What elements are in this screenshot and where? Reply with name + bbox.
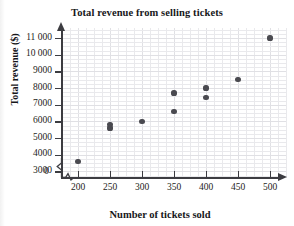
gridline-horizontal xyxy=(62,59,286,60)
gridline-horizontal xyxy=(62,67,286,68)
y-tick-label: 6000 xyxy=(4,115,52,125)
gridline-horizontal xyxy=(62,80,286,81)
x-tick-label: 500 xyxy=(250,182,290,192)
chart-figure: Total revenue from selling tickets Total… xyxy=(0,0,294,226)
y-tick-label: 4000 xyxy=(4,148,52,158)
gridline-horizontal xyxy=(62,121,286,122)
data-point xyxy=(171,109,176,114)
y-tick-mark xyxy=(55,138,62,139)
y-tick-mark xyxy=(55,71,62,72)
y-tick-mark xyxy=(55,55,62,56)
plot-area xyxy=(62,28,286,178)
gridline-horizontal xyxy=(62,155,286,156)
gridline-horizontal xyxy=(62,38,286,39)
data-point xyxy=(203,95,208,100)
x-axis-arrow-icon xyxy=(278,173,287,181)
gridline-horizontal xyxy=(62,142,286,143)
gridline-horizontal xyxy=(62,138,286,139)
data-point xyxy=(203,85,208,90)
gridline-vertical xyxy=(286,28,287,178)
x-axis-line xyxy=(61,177,280,179)
y-tick-mark xyxy=(55,105,62,106)
y-tick-mark xyxy=(55,121,62,122)
y-tick-label: 3000 xyxy=(4,165,52,175)
data-point xyxy=(139,119,144,124)
y-tick-label: 9000 xyxy=(4,65,52,75)
gridline-horizontal xyxy=(62,88,286,89)
data-point xyxy=(107,122,112,127)
x-tick-mark xyxy=(78,171,79,178)
gridline-horizontal xyxy=(62,159,286,160)
y-tick-mark xyxy=(55,171,62,172)
x-tick-mark xyxy=(174,171,175,178)
y-tick-label: 8000 xyxy=(4,82,52,92)
data-point xyxy=(267,35,272,40)
gridline-horizontal xyxy=(62,84,286,85)
y-tick-label: 10 000 xyxy=(4,48,52,58)
gridline-horizontal xyxy=(62,71,286,72)
y-tick-label: 11 000 xyxy=(4,32,52,42)
gridline-horizontal xyxy=(62,105,286,106)
gridline-horizontal xyxy=(62,101,286,102)
gridline-horizontal xyxy=(62,63,286,64)
y-tick-mark xyxy=(55,38,62,39)
x-tick-mark xyxy=(270,171,271,178)
y-tick-label: 5000 xyxy=(4,132,52,142)
gridline-horizontal xyxy=(62,167,286,168)
gridline-horizontal xyxy=(62,151,286,152)
gridline-horizontal xyxy=(62,96,286,97)
y-tick-mark xyxy=(55,155,62,156)
data-point xyxy=(171,90,176,95)
gridline-horizontal xyxy=(62,42,286,43)
gridline-horizontal xyxy=(62,130,286,131)
x-tick-mark xyxy=(142,171,143,178)
gridline-horizontal xyxy=(62,134,286,135)
data-point xyxy=(235,77,240,82)
data-point xyxy=(75,159,80,164)
gridline-horizontal xyxy=(62,163,286,164)
gridline-horizontal xyxy=(62,146,286,147)
gridline-horizontal xyxy=(62,46,286,47)
gridline-horizontal xyxy=(62,30,286,31)
gridline-horizontal xyxy=(62,55,286,56)
y-tick-label: 7000 xyxy=(4,98,52,108)
x-tick-mark xyxy=(238,171,239,178)
x-axis-label: Number of tickets sold xyxy=(40,209,280,220)
y-tick-mark xyxy=(55,88,62,89)
gridline-horizontal xyxy=(62,117,286,118)
y-axis-arrow-icon xyxy=(57,22,65,31)
gridline-horizontal xyxy=(62,76,286,77)
gridline-horizontal xyxy=(62,34,286,35)
x-tick-mark xyxy=(206,171,207,178)
gridline-horizontal xyxy=(62,51,286,52)
x-tick-mark xyxy=(110,171,111,178)
chart-title: Total revenue from selling tickets xyxy=(0,7,294,18)
gridline-horizontal xyxy=(62,126,286,127)
